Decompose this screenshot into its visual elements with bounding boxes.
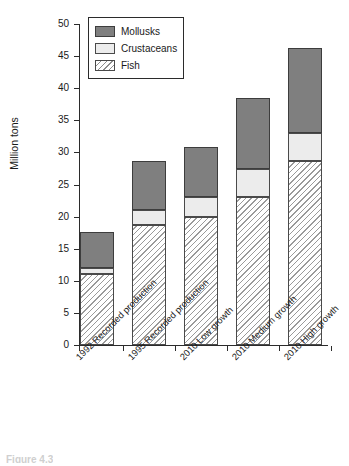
legend-swatch-mollusks: [95, 26, 115, 37]
y-tick-label: 45: [29, 51, 69, 61]
legend-label: Mollusks: [121, 26, 160, 37]
y-tick-label: 30: [29, 147, 69, 157]
bar-segment-mollusks: [288, 48, 322, 133]
bar-segment-crustaceans: [80, 268, 114, 274]
bar-segment-crustaceans: [184, 197, 218, 218]
figure-caption-fragment: Figure 4.3: [6, 455, 53, 463]
legend-swatch-crustaceans: [95, 43, 115, 54]
bar-segment-mollusks: [132, 161, 166, 210]
chart-legend: MollusksCrustaceansFish: [88, 17, 184, 79]
figure-stacked-bar-chart: Million tons 05101520253035404550 1992 R…: [0, 0, 349, 466]
x-tick-mark: [331, 346, 332, 351]
legend-item: Fish: [95, 57, 177, 73]
bar-stack: [236, 24, 270, 345]
x-tick-mark: [175, 346, 176, 351]
x-tick-mark: [279, 346, 280, 351]
y-tick-label: 5: [29, 308, 69, 318]
x-tick-mark: [227, 346, 228, 351]
bar-segment-fish: [288, 161, 322, 345]
legend-swatch-fish: [95, 60, 115, 71]
bar-segment-crustaceans: [288, 133, 322, 161]
y-tick-label: 10: [29, 276, 69, 286]
y-axis-title: Million tons: [9, 84, 20, 204]
y-tick-label: 40: [29, 83, 69, 93]
y-tick-label: 25: [29, 180, 69, 190]
y-tick-label: 50: [29, 19, 69, 29]
legend-label: Fish: [121, 60, 140, 71]
bar-segment-crustaceans: [132, 210, 166, 225]
y-tick-label: 35: [29, 115, 69, 125]
legend-item: Mollusks: [95, 23, 177, 39]
x-tick-mark: [123, 346, 124, 351]
y-tick-label: 20: [29, 212, 69, 222]
bar-segment-mollusks: [80, 232, 114, 268]
legend-label: Crustaceans: [121, 43, 177, 54]
y-tick-label: 15: [29, 244, 69, 254]
y-tick-label: 0: [29, 340, 69, 350]
bar-segment-crustaceans: [236, 169, 270, 197]
bar-segment-mollusks: [236, 98, 270, 169]
bar-segment-mollusks: [184, 147, 218, 196]
legend-item: Crustaceans: [95, 40, 177, 56]
